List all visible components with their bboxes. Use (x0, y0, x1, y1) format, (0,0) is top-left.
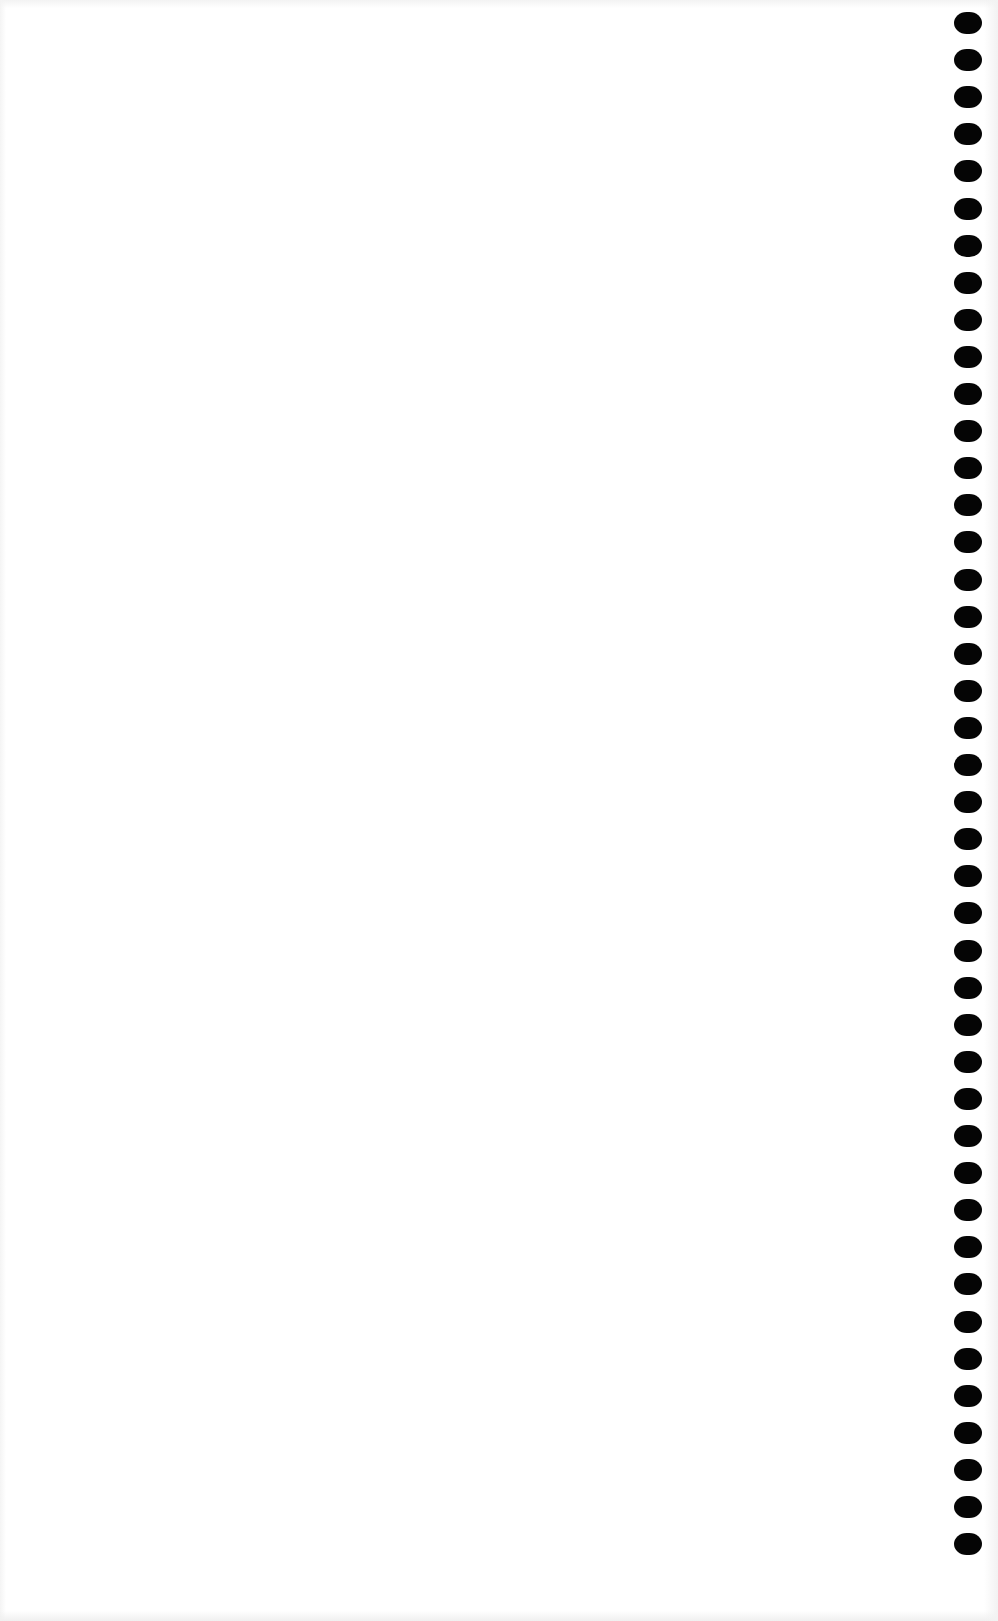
binding-hole-icon (954, 1348, 982, 1370)
binding-hole-icon (954, 198, 982, 220)
binding-hole-icon (954, 160, 982, 182)
binding-hole-icon (954, 1199, 982, 1221)
binding-hole-icon (954, 1422, 982, 1444)
binding-hole-icon (954, 494, 982, 516)
binding-holes-strip (954, 0, 988, 1621)
binding-hole-icon (954, 717, 982, 739)
binding-hole-icon (954, 1088, 982, 1110)
binding-hole-icon (954, 791, 982, 813)
binding-hole-icon (954, 940, 982, 962)
binding-hole-icon (954, 123, 982, 145)
binding-hole-icon (954, 977, 982, 999)
binding-hole-icon (954, 1533, 982, 1555)
binding-hole-icon (954, 1311, 982, 1333)
blank-page (0, 0, 998, 1621)
binding-hole-icon (954, 606, 982, 628)
binding-hole-icon (954, 680, 982, 702)
binding-hole-icon (954, 1236, 982, 1258)
binding-hole-icon (954, 457, 982, 479)
binding-hole-icon (954, 569, 982, 591)
binding-hole-icon (954, 86, 982, 108)
page-edge-shadow-left (0, 0, 6, 1621)
page-edge-shadow-top (0, 0, 998, 8)
binding-hole-icon (954, 49, 982, 71)
binding-hole-icon (954, 12, 982, 34)
binding-hole-icon (954, 235, 982, 257)
binding-hole-icon (954, 828, 982, 850)
binding-hole-icon (954, 643, 982, 665)
binding-hole-icon (954, 1273, 982, 1295)
binding-hole-icon (954, 754, 982, 776)
binding-hole-icon (954, 1014, 982, 1036)
page-edge-shadow-bottom (0, 1611, 998, 1621)
binding-hole-icon (954, 1459, 982, 1481)
binding-hole-icon (954, 1051, 982, 1073)
binding-hole-icon (954, 383, 982, 405)
binding-hole-icon (954, 1162, 982, 1184)
binding-hole-icon (954, 1385, 982, 1407)
binding-hole-icon (954, 1125, 982, 1147)
binding-hole-icon (954, 531, 982, 553)
binding-hole-icon (954, 902, 982, 924)
binding-hole-icon (954, 346, 982, 368)
binding-hole-icon (954, 309, 982, 331)
binding-hole-icon (954, 420, 982, 442)
binding-hole-icon (954, 865, 982, 887)
binding-hole-icon (954, 1496, 982, 1518)
binding-hole-icon (954, 272, 982, 294)
